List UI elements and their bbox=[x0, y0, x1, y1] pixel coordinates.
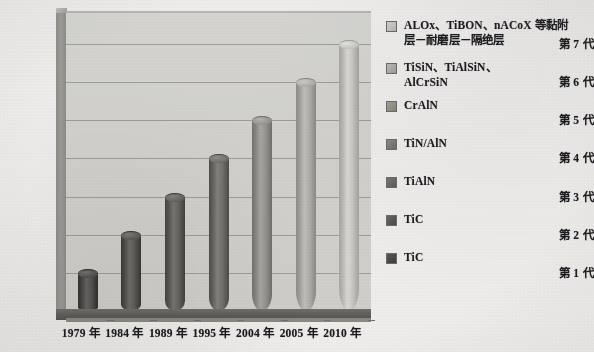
x-axis-label: 1995 年 bbox=[193, 324, 231, 340]
x-axis-tick bbox=[150, 320, 157, 321]
legend-item: TiAlN bbox=[386, 174, 435, 189]
legend-swatch bbox=[386, 63, 397, 74]
x-axis-tick bbox=[107, 320, 114, 321]
legend-label-line1: TiC bbox=[404, 212, 423, 227]
legend-label: TiN/AlN bbox=[404, 136, 447, 151]
bar-cylinder-body bbox=[165, 197, 185, 311]
legend-label-line2: 层－耐磨层－隔绝层 bbox=[404, 33, 568, 48]
y-axis-label: 第 5 代 bbox=[536, 114, 594, 126]
bar-column bbox=[78, 273, 98, 311]
legend-label: TiC bbox=[404, 250, 423, 265]
bar-column bbox=[165, 197, 185, 311]
legend-label: TiAlN bbox=[404, 174, 435, 189]
x-axis-label: 1984 年 bbox=[105, 324, 143, 340]
legend-swatch bbox=[386, 21, 397, 32]
bar-column bbox=[252, 120, 272, 311]
x-axis-tick bbox=[368, 320, 375, 321]
legend-swatch bbox=[386, 177, 397, 188]
legend-label-line2: AlCrSiN bbox=[404, 75, 497, 90]
legend-swatch bbox=[386, 139, 397, 150]
bar-cylinder-cap bbox=[121, 231, 141, 240]
y-axis-label: 第 4 代 bbox=[536, 152, 594, 164]
bar-cylinder-body bbox=[339, 44, 359, 311]
x-axis-label: 1979 年 bbox=[62, 324, 100, 340]
bar-cylinder-body bbox=[252, 120, 272, 311]
legend-label-line1: ALOx、TiBON、nACoX 等黏附 bbox=[404, 18, 568, 33]
bar-column bbox=[339, 44, 359, 311]
gridline bbox=[66, 120, 371, 121]
y-axis-label: 第 1 代 bbox=[536, 267, 594, 279]
bar-cylinder-body bbox=[296, 82, 316, 311]
legend-label-line1: CrAlN bbox=[404, 98, 438, 113]
bar-cylinder-cap bbox=[165, 193, 185, 202]
gridline bbox=[66, 44, 371, 45]
legend-label-line1: TiAlN bbox=[404, 174, 435, 189]
x-axis-tick bbox=[194, 320, 201, 321]
legend-item: TiSiN、TiAlSiN、AlCrSiN bbox=[386, 60, 497, 89]
bar-column bbox=[209, 158, 229, 311]
x-axis-tick bbox=[281, 320, 288, 321]
legend-label-line1: TiN/AlN bbox=[404, 136, 447, 151]
legend-swatch bbox=[386, 253, 397, 264]
bar-cylinder-body bbox=[78, 273, 98, 311]
x-axis-label: 2010 年 bbox=[323, 324, 361, 340]
x-axis-tick bbox=[237, 320, 244, 321]
column-chart: 第 7 代第 6 代第 5 代第 4 代第 3 代第 2 代第 1 代 1979… bbox=[0, 0, 594, 352]
legend-label: TiC bbox=[404, 212, 423, 227]
y-axis-label: 第 6 代 bbox=[536, 76, 594, 88]
x-axis-label: 1989 年 bbox=[149, 324, 187, 340]
bar-cylinder-cap bbox=[78, 269, 98, 278]
legend-swatch bbox=[386, 215, 397, 226]
legend-item: CrAlN bbox=[386, 98, 438, 113]
x-axis-tick bbox=[324, 320, 331, 321]
legend-label: CrAlN bbox=[404, 98, 438, 113]
legend-item: TiN/AlN bbox=[386, 136, 447, 151]
plot-area bbox=[66, 13, 371, 311]
bar-cylinder-body bbox=[209, 158, 229, 311]
legend-item: TiC bbox=[386, 212, 423, 227]
bar-column bbox=[121, 235, 141, 311]
bar-cylinder-body bbox=[121, 235, 141, 311]
legend-item: ALOx、TiBON、nACoX 等黏附层－耐磨层－隔绝层 bbox=[386, 18, 568, 47]
x-axis-label: 2004 年 bbox=[236, 324, 274, 340]
gridline bbox=[66, 82, 371, 83]
legend-label: ALOx、TiBON、nACoX 等黏附层－耐磨层－隔绝层 bbox=[404, 18, 568, 47]
legend-swatch bbox=[386, 101, 397, 112]
legend-label: TiSiN、TiAlSiN、AlCrSiN bbox=[404, 60, 497, 89]
legend-label-line1: TiC bbox=[404, 250, 423, 265]
legend-item: TiC bbox=[386, 250, 423, 265]
x-axis-label: 2005 年 bbox=[280, 324, 318, 340]
bar-cylinder-cap bbox=[296, 78, 316, 87]
y-axis-label: 第 2 代 bbox=[536, 229, 594, 241]
y-axis-label: 第 3 代 bbox=[536, 191, 594, 203]
legend-label-line1: TiSiN、TiAlSiN、 bbox=[404, 60, 497, 75]
bar-column bbox=[296, 82, 316, 311]
